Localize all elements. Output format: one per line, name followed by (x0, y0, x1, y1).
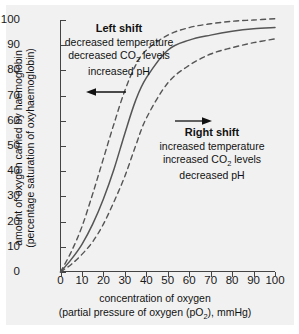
annotation-left-shift: Left shift decreased temperature decreas… (44, 22, 194, 78)
y-tick-label: 50 (0, 140, 20, 152)
y-tick-label: 20 (0, 216, 20, 228)
left-shift-line-1: decreased temperature (44, 36, 194, 49)
chart-figure: amount of oxygen carried by haemoglobin … (0, 0, 299, 334)
y-tick-mark (61, 20, 66, 21)
y-tick-label: 0 (0, 266, 20, 278)
y-tick-label: 70 (0, 90, 20, 102)
y-tick-label: 80 (0, 64, 20, 76)
x-axis-title-line2: (partial pressure of oxygen (pO2), mmHg) (30, 306, 280, 322)
y-axis-title-line2: (percentage saturation of oxyhaemoglobin… (24, 48, 36, 248)
x-tick-mark (168, 272, 169, 277)
x-axis-title-line2-post: ), mmHg) (208, 306, 252, 318)
y-tick-label: 100 (0, 14, 20, 26)
x-tick-mark (189, 272, 190, 277)
x-tick-mark (211, 272, 212, 277)
x-tick-mark (254, 272, 255, 277)
x-tick-mark (232, 272, 233, 277)
x-tick-mark (103, 272, 104, 277)
x-axis-title-line1: concentration of oxygen (30, 292, 280, 306)
x-tick-mark (125, 272, 126, 277)
y-tick-mark (61, 222, 66, 223)
right-shift-line-2-post: levels (231, 153, 261, 165)
y-tick-label: 60 (0, 115, 20, 127)
y-tick-mark (61, 121, 66, 122)
left-shift-line-2-post: levels (140, 49, 170, 61)
y-tick-mark (61, 171, 66, 172)
right-shift-line-3: decreased pH (136, 169, 288, 182)
x-tick-mark (61, 272, 62, 277)
x-tick-mark (275, 272, 276, 277)
x-axis-title: concentration of oxygen (partial pressur… (30, 292, 280, 321)
annotation-right-shift: Right shift increased temperature increa… (136, 126, 288, 182)
right-shift-line-1: increased temperature (136, 140, 288, 153)
y-tick-label: 30 (0, 190, 20, 202)
right-shift-line-2: increased CO2 levels (136, 153, 288, 169)
left-shift-line-2-pre: decreased CO (68, 49, 136, 61)
y-tick-label: 10 (0, 241, 20, 253)
y-tick-label: 40 (0, 165, 20, 177)
y-tick-mark (61, 196, 66, 197)
y-tick-mark (61, 96, 66, 97)
left-shift-line-3: increased pH (44, 65, 194, 78)
y-tick-label: 90 (0, 39, 20, 51)
y-tick-mark (61, 146, 66, 147)
right-shift-line-2-pre: increased CO (163, 153, 227, 165)
x-axis-title-line2-pre: (partial pressure of oxygen (pO (59, 306, 204, 318)
right-shift-heading: Right shift (136, 126, 288, 140)
left-shift-heading: Left shift (44, 22, 194, 36)
x-tick-mark (146, 272, 147, 277)
left-shift-line-2: decreased CO2 levels (44, 49, 194, 65)
x-tick-mark (82, 272, 83, 277)
y-tick-mark (61, 247, 66, 248)
